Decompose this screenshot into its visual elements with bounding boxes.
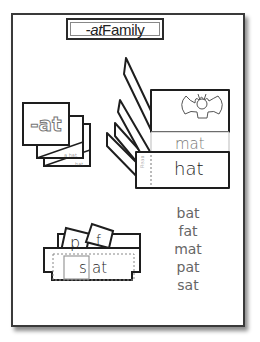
word-list-item: bat [165, 205, 211, 221]
slider-window-letter: s [79, 261, 87, 275]
title-prefix: -at [86, 21, 103, 38]
flip-book-bottom-word: hat [174, 160, 204, 178]
word-list-item: pat [165, 259, 211, 275]
word-list-item: sat [165, 277, 211, 293]
page-title: -at Family [66, 18, 164, 40]
crafts-illustration [0, 0, 260, 342]
word-card-back-text-2: hat. [75, 157, 85, 171]
word-card-label: -at [26, 114, 66, 134]
word-list-item: mat [165, 241, 211, 257]
flip-book [107, 58, 229, 188]
flip-book-side-label: Read [135, 155, 149, 168]
word-list-item: fat [165, 223, 211, 239]
title-suffix: Family [102, 21, 144, 38]
letter-card-f-label: f [96, 233, 101, 247]
flip-book-middle-word: mat [175, 137, 205, 151]
slider-rime: at [92, 261, 107, 275]
letter-card-p-label: p [70, 236, 80, 250]
